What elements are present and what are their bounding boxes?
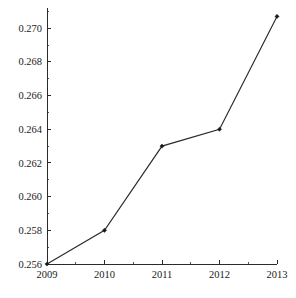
x-tick-label: 2010 bbox=[94, 269, 115, 280]
y-tick-label: 0.270 bbox=[18, 23, 42, 34]
x-tick-label: 2012 bbox=[209, 269, 230, 280]
data-series-line bbox=[47, 16, 277, 264]
y-tick-label: 0.268 bbox=[18, 56, 42, 67]
y-tick-label: 0.256 bbox=[18, 259, 42, 270]
y-axis-tick-labels: 0.2560.2580.2600.2620.2640.2660.2680.270 bbox=[18, 23, 42, 270]
y-tick-label: 0.266 bbox=[18, 90, 42, 101]
y-tick-label: 0.262 bbox=[18, 158, 42, 169]
x-tick-label: 2009 bbox=[37, 269, 58, 280]
data-point-marker bbox=[275, 14, 279, 18]
x-tick-label: 2013 bbox=[267, 269, 288, 280]
line-chart: 0.2560.2580.2600.2620.2640.2660.2680.270… bbox=[0, 0, 296, 298]
y-tick-label: 0.260 bbox=[18, 191, 42, 202]
x-axis-major-ticks bbox=[47, 260, 277, 264]
data-point-marker bbox=[217, 127, 221, 131]
x-tick-label: 2011 bbox=[152, 269, 173, 280]
data-point-markers bbox=[45, 14, 279, 266]
y-tick-label: 0.258 bbox=[18, 225, 42, 236]
y-tick-label: 0.264 bbox=[18, 124, 42, 135]
x-axis-tick-labels: 20092010201120122013 bbox=[37, 269, 288, 280]
chart-container: 0.2560.2580.2600.2620.2640.2660.2680.270… bbox=[0, 0, 296, 298]
